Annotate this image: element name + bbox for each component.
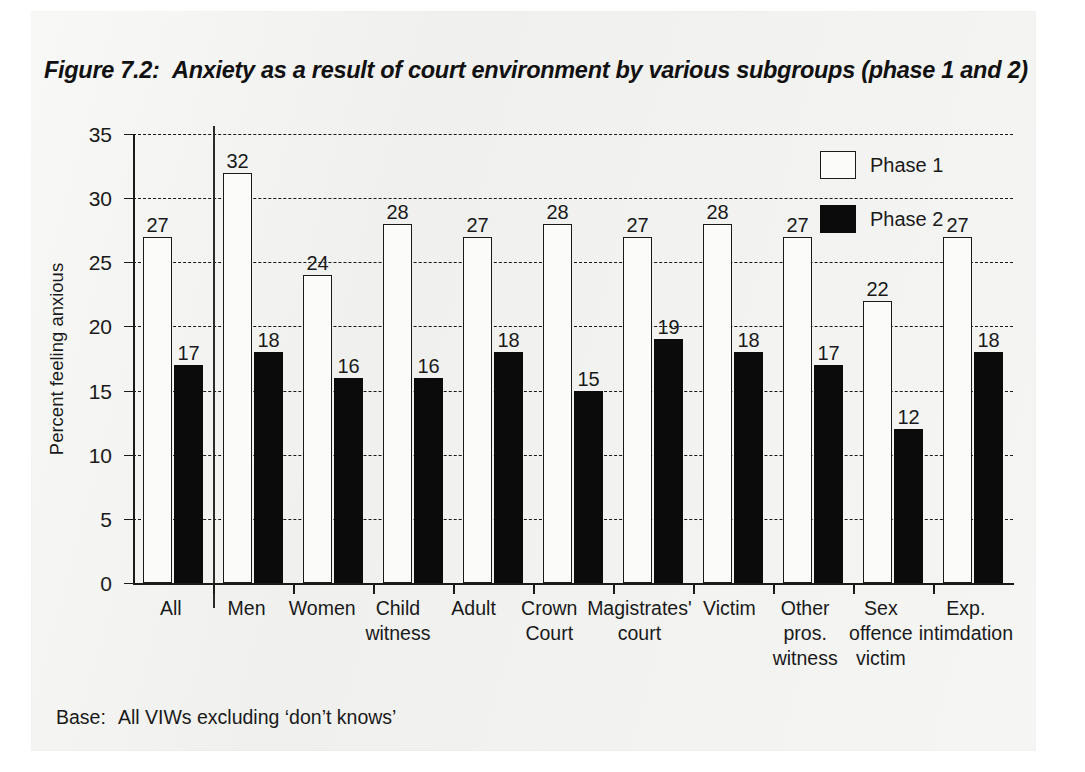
bar-value-label: 16 [337, 356, 359, 376]
bar-phase-1[interactable]: 27 [623, 237, 652, 583]
bar-group-bars: 2718 [453, 134, 533, 583]
x-axis-label-line: Sex [843, 596, 919, 621]
bar-value-label: 15 [577, 369, 599, 389]
x-axis-tick [773, 583, 775, 594]
x-axis-label-line: victim [843, 646, 919, 671]
bar-value-label: 32 [226, 151, 248, 171]
bar-value-label: 24 [306, 253, 328, 273]
x-axis-tick [213, 583, 215, 594]
bar-value-label: 27 [466, 215, 488, 235]
bar-phase-2[interactable]: 16 [414, 378, 443, 583]
bar-value-label: 28 [546, 202, 568, 222]
bar-group: 2416 [293, 134, 373, 583]
figure-page: Figure 7.2:Anxiety as a result of court … [0, 0, 1085, 772]
bar-phase-1[interactable]: 32 [223, 173, 252, 584]
bar-value-label: 22 [866, 279, 888, 299]
x-axis-tick [293, 583, 295, 594]
x-axis-label: Women [284, 596, 360, 671]
bar-phase-2[interactable]: 17 [814, 365, 843, 583]
bar-group-bars: 2718 [933, 134, 1013, 583]
x-axis-label-line: intimdation [919, 621, 1013, 646]
bar-phase-2[interactable]: 15 [574, 391, 603, 583]
y-axis-tick-label: 15 [89, 380, 112, 404]
figure-title: Figure 7.2:Anxiety as a result of court … [44, 57, 1014, 84]
bar-group: 2815 [533, 134, 613, 583]
bar-phase-1[interactable]: 24 [303, 275, 332, 583]
bar-phase-1[interactable]: 22 [863, 301, 892, 583]
bar-value-label: 28 [386, 202, 408, 222]
bar-value-label: 27 [946, 215, 968, 235]
bar-group-bars: 3218 [213, 134, 293, 583]
bar-value-label: 17 [817, 343, 839, 363]
bar-phase-2[interactable]: 19 [654, 339, 683, 583]
bar-phase-1[interactable]: 27 [783, 237, 812, 583]
base-note: Base:All VIWs excluding ‘don’t knows’ [56, 706, 396, 729]
bar-value-label: 18 [257, 330, 279, 350]
bar-phase-2[interactable]: 18 [734, 352, 763, 583]
chart-legend: Phase 1 Phase 2 [820, 148, 943, 256]
bar-phase-1[interactable]: 28 [703, 224, 732, 583]
legend-label-phase-2: Phase 2 [870, 208, 943, 231]
y-axis-tick: 5 [124, 519, 133, 520]
x-axis-label: Otherpros.witness [767, 596, 843, 671]
base-note-text: All VIWs excluding ‘don’t knows’ [118, 706, 397, 728]
x-axis-tick [373, 583, 375, 594]
x-axis-label-line: witness [767, 646, 843, 671]
bar-value-label: 18 [497, 330, 519, 350]
bar-value-label: 19 [657, 317, 679, 337]
bar-phase-2[interactable]: 17 [174, 365, 203, 583]
bar-value-label: 17 [177, 343, 199, 363]
bar-group: 2816 [373, 134, 453, 583]
bar-group: 2818 [693, 134, 773, 583]
bar-value-label: 16 [417, 356, 439, 376]
x-axis-label-line: court [587, 621, 692, 646]
x-axis-tick [933, 583, 935, 594]
bar-value-label: 27 [626, 215, 648, 235]
x-axis-label-line: Court [511, 621, 587, 646]
bar-phase-1[interactable]: 27 [943, 237, 972, 583]
x-axis-label: Adult [436, 596, 512, 671]
x-axis-tick [533, 583, 535, 594]
x-axis-tick [853, 583, 855, 594]
bar-phase-1[interactable]: 28 [543, 224, 572, 583]
x-axis-tick [613, 583, 615, 594]
y-axis-tick: 30 [124, 198, 133, 199]
bar-value-label: 27 [146, 215, 168, 235]
y-axis-tick-label: 5 [100, 508, 112, 532]
bar-phase-1[interactable]: 28 [383, 224, 412, 583]
x-axis-label: Childwitness [360, 596, 436, 671]
x-axis-label: Men [209, 596, 285, 671]
y-axis-tick: 15 [124, 391, 133, 392]
bar-phase-2[interactable]: 18 [254, 352, 283, 583]
figure-title-text: Anxiety as a result of court environment… [172, 57, 1028, 83]
bar-group: 3218 [213, 134, 293, 583]
figure-number: Figure 7.2: [44, 57, 172, 84]
x-axis-label-line: Other [767, 596, 843, 621]
x-axis-line [133, 583, 1014, 585]
y-axis-tick: 35 [124, 134, 133, 135]
legend-entry-phase-2: Phase 2 [820, 202, 943, 236]
bar-phase-2[interactable]: 18 [974, 352, 1003, 583]
x-axis-label: Victim [692, 596, 768, 671]
bar-group: 2718 [933, 134, 1013, 583]
bar-value-label: 28 [706, 202, 728, 222]
bar-phase-2[interactable]: 16 [334, 378, 363, 583]
x-axis-label-line: pros. [767, 621, 843, 646]
x-axis-label: Magistrates'court [587, 596, 692, 671]
y-axis-title-text: Percent feeling anxious [46, 262, 68, 454]
bar-phase-2[interactable]: 12 [894, 429, 923, 583]
bar-phase-2[interactable]: 18 [494, 352, 523, 583]
bar-group: 2717 [133, 134, 213, 583]
bar-phase-1[interactable]: 27 [463, 237, 492, 583]
bar-phase-1[interactable]: 27 [143, 237, 172, 583]
x-axis-label: CrownCourt [511, 596, 587, 671]
y-axis-tick: 0 [124, 583, 133, 584]
bar-group: 2718 [453, 134, 533, 583]
bar-group-bars: 2816 [373, 134, 453, 583]
base-note-label: Base: [56, 706, 106, 729]
x-axis-label-line: Women [284, 596, 360, 621]
x-axis-label-line: Men [209, 596, 285, 621]
x-axis-tick [453, 583, 455, 594]
x-axis-label: Exp.intimdation [919, 596, 1013, 671]
y-axis-tick-label: 35 [89, 123, 112, 147]
